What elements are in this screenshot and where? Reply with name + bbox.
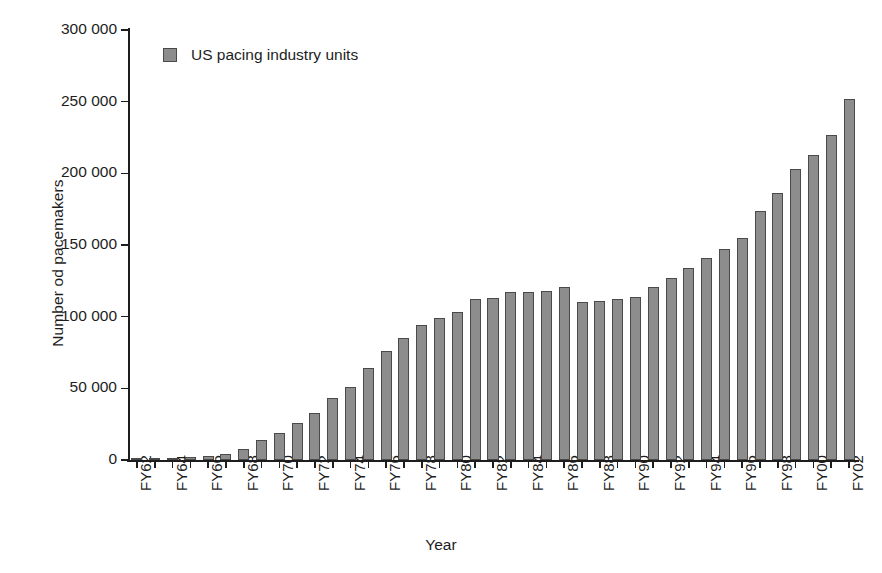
x-tick-label: FY80 bbox=[439, 473, 475, 490]
y-tick-mark bbox=[121, 244, 128, 246]
x-tick-label: FY96 bbox=[724, 473, 760, 490]
bar bbox=[238, 449, 249, 460]
x-tick-label: FY92 bbox=[653, 473, 689, 490]
bar bbox=[203, 456, 214, 460]
x-tick-mark bbox=[688, 461, 690, 468]
bar bbox=[559, 287, 570, 460]
x-tick-label: FY86 bbox=[546, 473, 582, 490]
x-tick-mark bbox=[332, 461, 334, 468]
bar bbox=[630, 297, 641, 460]
bar bbox=[309, 413, 320, 460]
bar bbox=[808, 155, 819, 460]
bar bbox=[648, 287, 659, 460]
x-tick-mark bbox=[403, 461, 405, 468]
bar bbox=[666, 278, 677, 460]
x-tick-label: FY70 bbox=[261, 473, 297, 490]
x-tick-mark bbox=[652, 461, 654, 468]
x-tick-label: FY72 bbox=[297, 473, 333, 490]
bar bbox=[719, 249, 730, 460]
x-tick-label: FY64 bbox=[155, 473, 191, 490]
x-tick-mark bbox=[617, 461, 619, 468]
x-tick-label: FY76 bbox=[368, 473, 404, 490]
bar bbox=[256, 440, 267, 460]
x-tick-label: FY90 bbox=[618, 473, 654, 490]
bar bbox=[149, 458, 160, 460]
x-axis-title: Year bbox=[0, 536, 882, 554]
bar bbox=[363, 368, 374, 460]
y-tick-label: 250 000 bbox=[61, 92, 117, 110]
y-tick-mark bbox=[121, 388, 128, 390]
x-tick-mark bbox=[724, 461, 726, 468]
bar bbox=[826, 135, 837, 460]
bar bbox=[701, 258, 712, 460]
bar bbox=[381, 351, 392, 460]
bar bbox=[416, 325, 427, 460]
bar bbox=[737, 238, 748, 460]
x-tick-mark bbox=[439, 461, 441, 468]
x-tick-label: FY68 bbox=[226, 473, 262, 490]
bar bbox=[398, 338, 409, 460]
bar bbox=[790, 169, 801, 460]
bar bbox=[274, 433, 285, 460]
y-tick-label: 200 000 bbox=[61, 163, 117, 181]
bar bbox=[772, 193, 783, 460]
bar bbox=[577, 302, 588, 460]
bar bbox=[505, 292, 516, 460]
y-tick-mark bbox=[121, 173, 128, 175]
x-tick-label: FY02 bbox=[831, 473, 867, 490]
y-tick-mark bbox=[121, 316, 128, 318]
bar bbox=[131, 458, 142, 460]
x-tick-mark bbox=[510, 461, 512, 468]
y-tick-mark bbox=[121, 101, 128, 103]
legend-label: US pacing industry units bbox=[191, 46, 358, 64]
bar bbox=[434, 318, 445, 460]
x-tick-label: FY88 bbox=[582, 473, 618, 490]
x-tick-label: FY82 bbox=[475, 473, 511, 490]
y-tick-label: 50 000 bbox=[70, 378, 117, 396]
bar-series bbox=[128, 30, 858, 460]
bar bbox=[167, 458, 178, 460]
chart-legend: US pacing industry units bbox=[163, 46, 358, 64]
x-tick-label: FY98 bbox=[760, 473, 796, 490]
x-tick-mark bbox=[759, 461, 761, 468]
x-tick-mark bbox=[190, 461, 192, 468]
bar bbox=[292, 423, 303, 460]
x-tick-label: FY94 bbox=[689, 473, 725, 490]
bar bbox=[844, 99, 855, 460]
x-tick-label: FY66 bbox=[190, 473, 226, 490]
x-tick-mark bbox=[261, 461, 263, 468]
bar bbox=[523, 292, 534, 460]
bar bbox=[541, 291, 552, 460]
y-tick-mark bbox=[121, 29, 128, 31]
bar bbox=[470, 299, 481, 460]
bar bbox=[755, 211, 766, 460]
x-tick-label: FY74 bbox=[333, 473, 369, 490]
x-tick-label: FY62 bbox=[119, 473, 155, 490]
y-tick-label: 150 000 bbox=[61, 235, 117, 253]
bar bbox=[327, 398, 338, 460]
x-tick-mark bbox=[225, 461, 227, 468]
bar bbox=[452, 312, 463, 460]
x-tick-mark bbox=[474, 461, 476, 468]
x-tick-label: FY00 bbox=[796, 473, 832, 490]
bar bbox=[220, 454, 231, 460]
y-tick-label: 100 000 bbox=[61, 307, 117, 325]
x-tick-mark bbox=[296, 461, 298, 468]
x-tick-mark bbox=[830, 461, 832, 468]
y-axis-title: Number od pacemakers bbox=[49, 113, 67, 413]
x-tick-mark bbox=[795, 461, 797, 468]
y-tick-mark bbox=[121, 459, 128, 461]
bar bbox=[594, 301, 605, 460]
bar bbox=[487, 298, 498, 460]
y-tick-label: 0 bbox=[108, 450, 117, 468]
x-tick-mark bbox=[154, 461, 156, 468]
y-tick-label: 300 000 bbox=[61, 20, 117, 38]
x-tick-mark bbox=[581, 461, 583, 468]
x-tick-mark bbox=[546, 461, 548, 468]
legend-swatch-icon bbox=[163, 48, 177, 62]
x-tick-label: FY84 bbox=[511, 473, 547, 490]
bar bbox=[612, 299, 623, 460]
bar bbox=[345, 387, 356, 460]
x-tick-label: FY78 bbox=[404, 473, 440, 490]
bar bbox=[683, 268, 694, 460]
